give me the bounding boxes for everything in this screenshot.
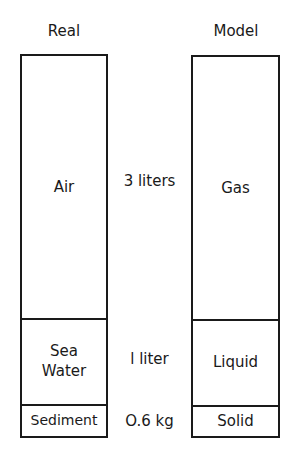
real-title: Real — [14, 22, 114, 40]
air-quantity: 3 liters — [107, 172, 192, 190]
air-layer: Air — [22, 56, 106, 320]
real-column: Air Sea Water Sediment — [20, 54, 108, 438]
sediment-layer: Sediment — [22, 404, 106, 436]
water-quantity: l liter — [107, 350, 192, 368]
sediment-quantity: O.6 kg — [107, 412, 192, 430]
liquid-layer: Liquid — [193, 319, 278, 407]
model-column: Gas Liquid Solid — [191, 55, 280, 438]
sea-water-layer: Sea Water — [22, 318, 106, 406]
model-title: Model — [186, 22, 286, 40]
gas-layer: Gas — [193, 57, 278, 321]
solid-layer: Solid — [193, 405, 278, 436]
